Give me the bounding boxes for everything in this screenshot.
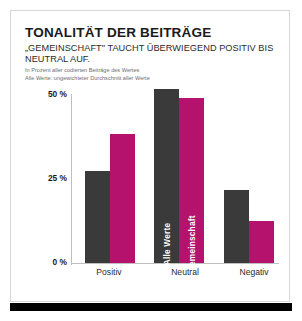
y-tick-50: 50 % <box>27 89 67 99</box>
x-label-negativ: Negativ <box>219 267 289 277</box>
series-label-gemeinschaft: Gemeinschaft <box>187 215 197 272</box>
series-label-alle-werte: Alle Werte <box>162 223 172 265</box>
plot-area: 50 % 25 % 0 % Alle WerteGemeinschaft Pos… <box>11 11 291 303</box>
x-label-neutral: Neutral <box>147 267 223 277</box>
y-axis-line <box>71 94 72 265</box>
y-tick-25: 25 % <box>27 173 67 183</box>
x-axis-line <box>71 263 279 264</box>
y-axis-labels: 50 % 25 % 0 % <box>17 11 67 303</box>
y-tick-0: 0 % <box>27 257 67 267</box>
bar-alle-werte-neutral: Alle Werte <box>154 89 179 263</box>
x-label-positiv: Positiv <box>71 267 147 277</box>
footer-bar <box>10 303 292 311</box>
bar-alle-werte-negativ <box>224 190 249 263</box>
bar-gemeinschaft-neutral: Gemeinschaft <box>179 98 204 263</box>
chart-card: TONALITÄT DER BEITRÄGE „GEMEINSCHAFT" TA… <box>10 10 290 302</box>
bar-gemeinschaft-positiv <box>110 134 135 263</box>
bar-gemeinschaft-negativ <box>249 221 274 263</box>
bar-alle-werte-positiv <box>85 171 110 263</box>
